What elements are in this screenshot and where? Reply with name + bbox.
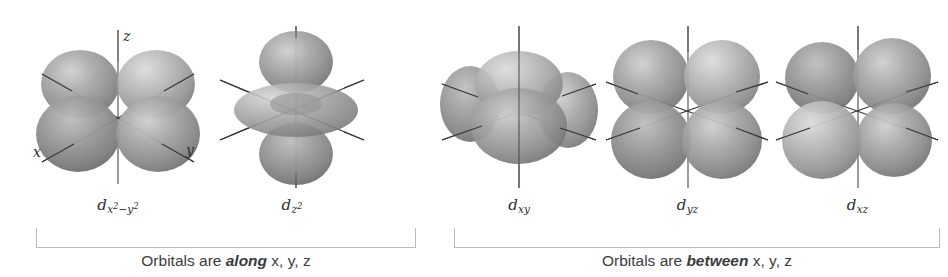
caption-prefix-along: Orbitals are [141, 252, 225, 269]
caption-emphasis-between: between [686, 252, 748, 269]
orbital-dxy-graphic [434, 22, 604, 192]
caption-emphasis-along: along [226, 252, 267, 269]
caption-suffix-between: x, y, z [748, 252, 792, 269]
orbital-lobes [611, 40, 762, 179]
orbital-group-between: dxy [452, 0, 948, 277]
axis-label-x: x [33, 144, 41, 160]
orbital-dz2 [212, 22, 372, 192]
orbital-label-dz2: dz2 [212, 196, 372, 215]
orbital-group-along: z x y dx2−y2 [0, 0, 452, 277]
orbital-label-dxz: dxz [770, 196, 945, 215]
axis-label-z: z [123, 28, 130, 44]
orbital-dx2-y2-graphic [28, 22, 208, 192]
group-caption-between: Orbitals are between x, y, z [454, 252, 940, 270]
orbital-lobes [234, 31, 358, 185]
orbital-label-dx2-y2: dx2−y2 [28, 196, 208, 215]
group-bracket-between [454, 228, 940, 248]
orbital-dxz-graphic [770, 22, 945, 192]
orbital-dyz [600, 22, 775, 192]
group-caption-along: Orbitals are along x, y, z [36, 252, 416, 270]
orbital-dx2-y2: z x y [28, 22, 208, 192]
orbital-dxy [434, 22, 604, 192]
orbital-dxz [770, 22, 945, 192]
orbital-lobes [782, 38, 932, 179]
orbital-dz2-graphic [212, 22, 372, 192]
orbital-dyz-graphic [600, 22, 775, 192]
caption-suffix-along: x, y, z [267, 252, 311, 269]
orbital-label-dyz: dyz [600, 196, 775, 215]
group-bracket-along [36, 228, 416, 248]
orbital-label-dxy: dxy [434, 196, 604, 215]
d-orbital-diagram: z x y dx2−y2 [0, 0, 948, 277]
caption-prefix-between: Orbitals are [602, 252, 686, 269]
axis-label-y: y [186, 142, 194, 158]
